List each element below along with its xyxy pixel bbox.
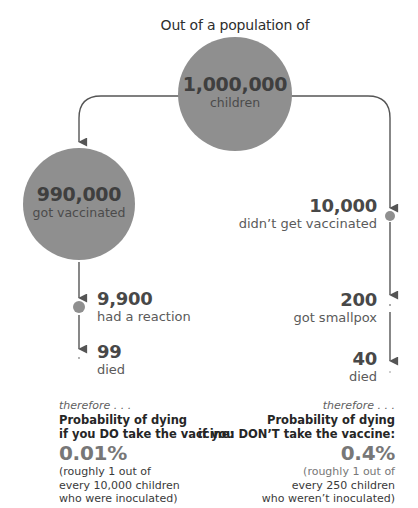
unvaccinated-conclusion: therefore . . . Probability of dying if …: [195, 399, 395, 506]
vaccinated-node: 990,000 got vaccinated: [23, 183, 135, 220]
vacc-died-count: 99: [97, 341, 197, 362]
vaccinated-label: got vaccinated: [23, 205, 135, 220]
smallpox-node: 200 got smallpox: [240, 289, 377, 326]
diagram-title: Out of a population of: [0, 17, 418, 33]
probability-note-line3: who weren’t inoculated): [195, 492, 395, 506]
branch-line-vaccinated: [79, 96, 180, 142]
unvaccinated-node: 10,000 didn’t get vaccinated: [220, 195, 377, 232]
unvacc-died-node: 40 died: [280, 348, 377, 385]
probability-note-line1: (roughly 1 out of: [195, 465, 395, 479]
unvacc-died-label: died: [280, 369, 377, 385]
unvacc-died-count: 40: [280, 348, 377, 369]
root-node: 1,000,000 children: [178, 73, 292, 110]
unvacc-died-dot: [389, 371, 391, 373]
vaccinated-count: 990,000: [23, 183, 135, 205]
reaction-count: 9,900: [97, 288, 237, 309]
reaction-node: 9,900 had a reaction: [97, 288, 237, 325]
root-label: children: [178, 95, 292, 110]
reaction-dot: [73, 301, 85, 313]
unvaccinated-label: didn’t get vaccinated: [220, 216, 377, 232]
smallpox-count: 200: [240, 289, 377, 310]
vacc-died-label: died: [97, 362, 197, 378]
vacc-died-dot: [78, 357, 80, 359]
branch-line-unvaccinated: [290, 96, 390, 208]
smallpox-dot: [389, 304, 391, 306]
root-count: 1,000,000: [178, 73, 292, 95]
smallpox-label: got smallpox: [240, 310, 377, 326]
reaction-label: had a reaction: [97, 309, 237, 325]
probability-heading-line1: Probability of dying: [195, 413, 395, 427]
unvaccinated-dot: [385, 211, 395, 221]
probability-percent: 0.4%: [195, 441, 395, 465]
therefore-label: therefore . . .: [195, 399, 395, 413]
probability-heading-line2: if you DON’T take the vaccine:: [195, 427, 395, 441]
vacc-died-node: 99 died: [97, 341, 197, 378]
unvaccinated-count: 10,000: [220, 195, 377, 216]
probability-note-line2: every 250 children: [195, 479, 395, 493]
